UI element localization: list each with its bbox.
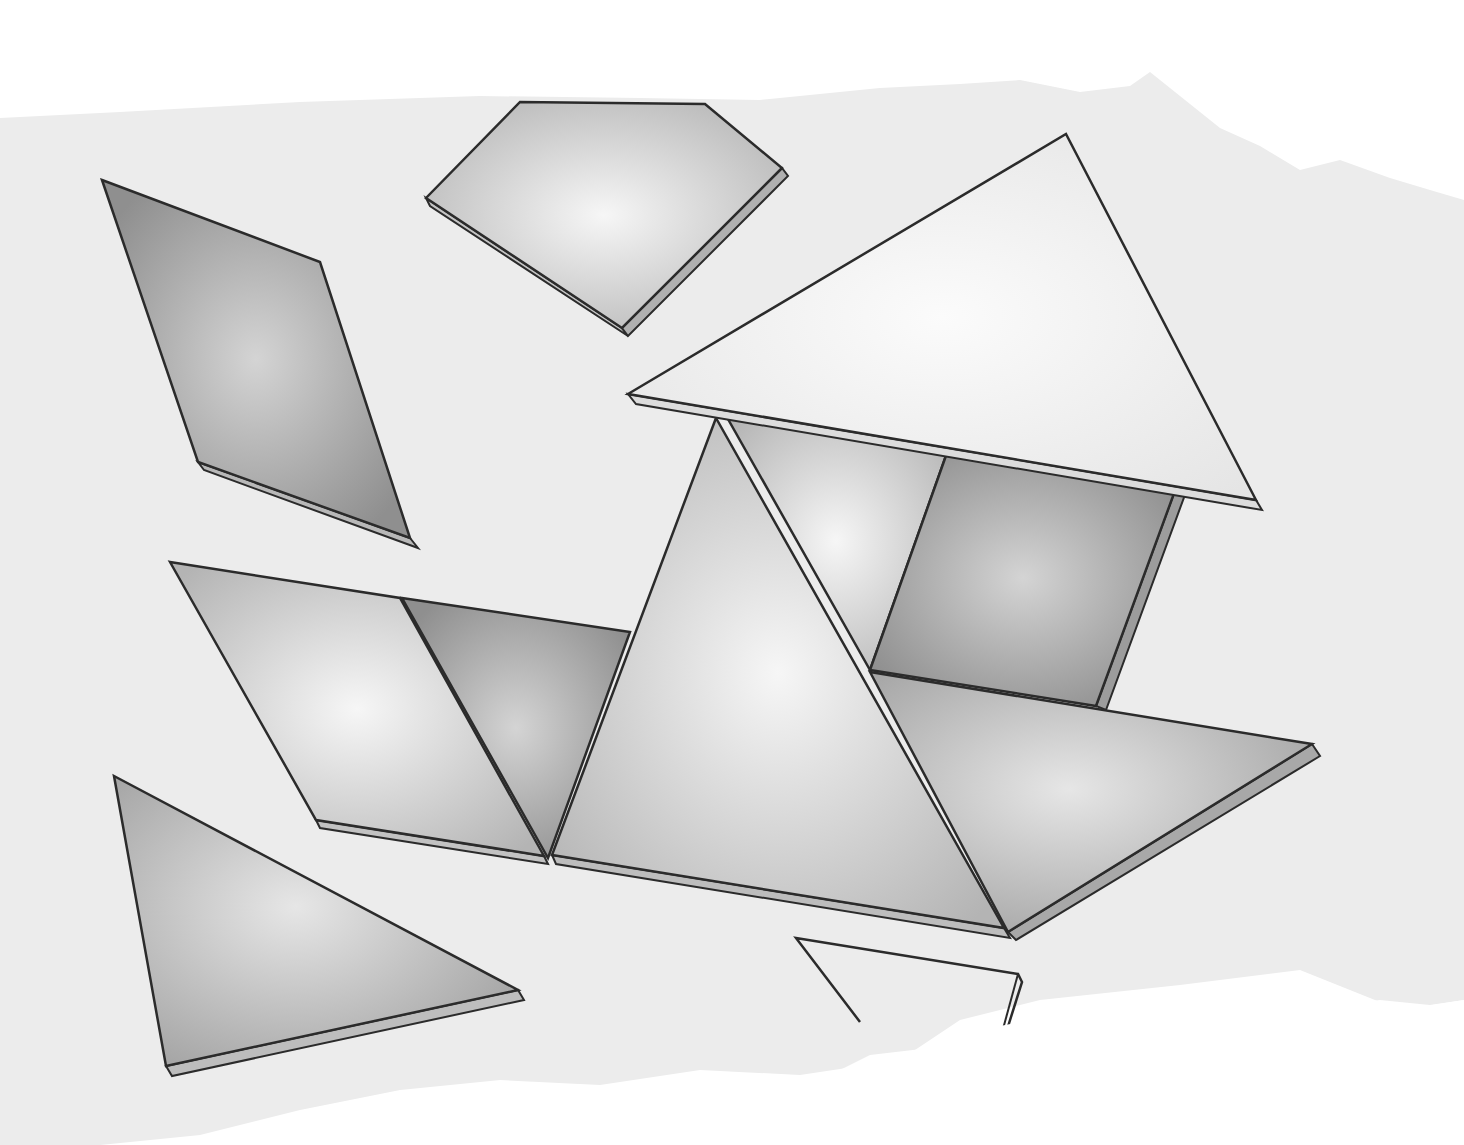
tangram-illustration (0, 0, 1464, 1145)
